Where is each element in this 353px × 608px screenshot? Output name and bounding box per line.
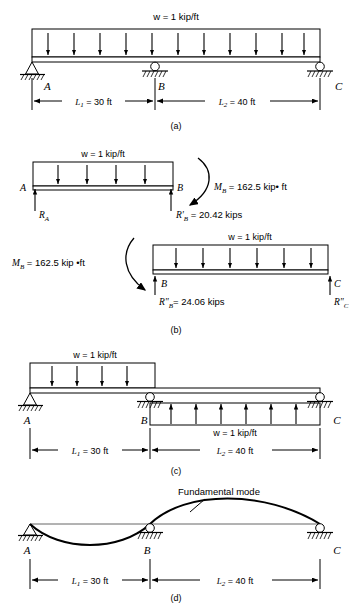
panel-a-node-label-B: B — [158, 80, 165, 92]
panel-a-node-label-C: C — [335, 80, 343, 92]
panel-d-support-A — [18, 524, 43, 541]
panel-c-load-arrows-bottom — [171, 404, 296, 424]
svg-text:L1 = 30 ft: L1 = 30 ft — [71, 576, 109, 589]
panel-b-bottom-load-arrows — [176, 248, 311, 268]
svg-text:MB = 162.5 kip• ft: MB = 162.5 kip• ft — [213, 181, 287, 195]
panel-a-support-A — [20, 62, 45, 80]
panel-a-dimension-1: L1 = 30 ft — [34, 97, 153, 110]
panel-a-load-label: w = 1 kip/ft — [152, 11, 199, 22]
panel-a-dim2-rest: = 40 ft — [227, 97, 255, 107]
panel-a-node-label-A: A — [43, 80, 51, 92]
panel-a-load-arrows — [48, 33, 304, 55]
panel-c-load-label-top: w = 1 kip/ft — [72, 350, 117, 360]
panel-c-node-label-A: A — [23, 414, 31, 426]
panel-b-bottom-RC-sub: C — [344, 302, 349, 310]
svg-text:R'B = 20.42 kips: R'B = 20.42 kips — [175, 209, 243, 223]
panel-c-beam — [30, 388, 320, 393]
panel-a-beam — [32, 57, 320, 62]
panel-d-annotation: Fundamental mode — [178, 486, 260, 497]
panel-c-support-A — [18, 393, 43, 411]
panel-c-dimension-2: L2 = 40 ft — [152, 446, 318, 459]
panel-b-top-node-A: A — [19, 182, 27, 193]
panel-b-top-RA-sub: A — [44, 215, 50, 223]
panel-a-caption: (a) — [171, 121, 182, 131]
panel-d-dim2-rest: = 40 ft — [225, 576, 253, 586]
panel-d-support-C — [307, 524, 333, 539]
svg-text:RA: RA — [38, 210, 50, 223]
panel-b-bottom-node-C: C — [334, 278, 341, 289]
svg-text:L2 = 40 ft: L2 = 40 ft — [216, 576, 254, 589]
panel-d-caption: (d) — [171, 593, 182, 603]
panel-b-top-node-B: B — [177, 182, 183, 193]
panel-d-node-label-A: A — [23, 544, 31, 556]
panel-a-dim1-rest: = 30 ft — [84, 97, 112, 107]
panel-b-bottom-moment-arc — [126, 238, 145, 290]
panel-d: Fundamental mode — [18, 486, 341, 603]
svg-text:L2 = 40 ft: L2 = 40 ft — [218, 97, 256, 110]
panel-a: w = 1 kip/ft — [20, 11, 343, 131]
panel-d-node-label-C: C — [333, 544, 341, 556]
svg-text:R"B= 24.06 kips: R"B= 24.06 kips — [158, 296, 225, 310]
panel-b-bottom-RB-val: = 24.06 kips — [173, 296, 225, 307]
panel-c-load-block-bottom — [150, 403, 320, 425]
panel-c-dim1-rest: = 30 ft — [80, 446, 108, 456]
panel-b-bottom-MB-val: = 162.5 kip •ft — [24, 257, 85, 268]
panel-b-top-load-arrows — [58, 165, 145, 184]
svg-text:L1 = 30 ft: L1 = 30 ft — [74, 97, 112, 110]
panel-d-dimension-2: L2 = 40 ft — [152, 576, 318, 589]
panel-b-caption: (b) — [171, 325, 182, 335]
panel-d-dimension-1: L1 = 30 ft — [32, 576, 148, 589]
panel-b-bottom-beam — [153, 270, 328, 274]
svg-text:MB = 162.5 kip •ft: MB = 162.5 kip •ft — [11, 257, 85, 271]
panel-c-load-block-top — [30, 363, 155, 388]
panel-c-load-arrows-top — [52, 366, 127, 386]
panel-b-top-RB-val: = 20.42 kips — [188, 209, 242, 220]
panel-b: w = 1 kip/ft A B RA R'B = 20.42 kips — [11, 149, 349, 335]
panel-b-bottom-load-label: w = 1 kip/ft — [227, 232, 272, 242]
panel-b-top-beam — [33, 186, 173, 190]
panel-c-dim2-rest: = 40 ft — [225, 446, 253, 456]
panel-d-node-label-B: B — [144, 544, 151, 556]
panel-b-freebody-top: w = 1 kip/ft A B RA R'B = 20.42 kips — [19, 149, 287, 223]
panel-a-dimension-2: L2 = 40 ft — [157, 97, 318, 110]
panel-c-node-label-B: B — [141, 414, 148, 426]
panel-b-top-load-label: w = 1 kip/ft — [80, 149, 125, 159]
svg-text:R"C: R"C — [333, 297, 349, 310]
panel-d-mode-shape-curve — [30, 499, 320, 546]
panel-b-bottom-node-B: B — [161, 278, 167, 289]
panel-b-top-moment-arc — [190, 158, 209, 205]
panel-b-top-load-block — [33, 162, 173, 186]
panel-c-load-label-bottom: w = 1 kip/ft — [212, 428, 257, 438]
panel-d-dim1-rest: = 30 ft — [80, 576, 108, 586]
beam-figure: w = 1 kip/ft — [0, 0, 353, 608]
panel-b-freebody-bottom: w = 1 kip/ft B C R"B= 24.06 kips R"C — [11, 232, 349, 310]
panel-c: w = 1 kip/ft — [18, 350, 341, 476]
panel-b-top-MB-val: = 162.5 kip• ft — [226, 181, 287, 192]
panel-c-node-label-C: C — [333, 414, 341, 426]
panel-a-support-B — [142, 62, 168, 77]
panel-b-bottom-load-block — [153, 245, 328, 270]
panel-c-caption: (c) — [171, 466, 182, 476]
panel-a-load-block — [32, 29, 320, 57]
svg-text:L1 = 30 ft: L1 = 30 ft — [71, 446, 109, 459]
svg-text:L2 = 40 ft: L2 = 40 ft — [216, 446, 254, 459]
panel-a-support-C — [307, 62, 333, 77]
panel-c-dimension-1: L1 = 30 ft — [32, 446, 148, 459]
